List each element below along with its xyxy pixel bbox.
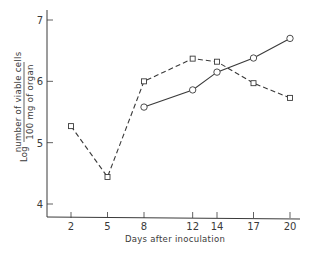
square-marker bbox=[105, 175, 110, 180]
square-marker bbox=[288, 95, 293, 100]
square-marker bbox=[251, 81, 256, 86]
x-tick-label: 2 bbox=[68, 221, 74, 232]
x-tick-label: 14 bbox=[211, 221, 224, 232]
circle-marker bbox=[250, 55, 256, 61]
series-layer bbox=[69, 35, 294, 179]
y-axis-title-numerator: number of viable cells bbox=[13, 51, 23, 152]
y-tick-label: 7 bbox=[37, 15, 43, 26]
axes: 456725812141720 bbox=[37, 10, 300, 232]
y-tick-label: 4 bbox=[37, 199, 43, 210]
circle-marker bbox=[189, 87, 195, 93]
y-axis-title: Log number of viable cells 100 mg of org… bbox=[13, 51, 35, 162]
y-tick-label: 6 bbox=[37, 76, 43, 87]
x-tick-label: 8 bbox=[141, 221, 147, 232]
x-tick-label: 20 bbox=[284, 221, 297, 232]
square-marker bbox=[215, 59, 220, 64]
y-tick-label: 5 bbox=[37, 138, 43, 149]
circle-marker bbox=[141, 104, 147, 110]
circle-marker bbox=[287, 35, 293, 41]
circle-marker bbox=[214, 69, 220, 75]
square-marker bbox=[69, 124, 74, 129]
x-tick-label: 5 bbox=[104, 221, 110, 232]
square-marker bbox=[142, 79, 147, 84]
x-tick-label: 12 bbox=[186, 221, 199, 232]
x-tick-label: 17 bbox=[247, 221, 260, 232]
chart: 456725812141720 Days after inoculation L… bbox=[0, 0, 310, 254]
x-axis-title: Days after inoculation bbox=[125, 234, 225, 244]
series-squares-dashed bbox=[69, 56, 293, 179]
series-line bbox=[71, 59, 290, 177]
y-axis-title-denominator: 100 mg of organ bbox=[25, 64, 35, 139]
square-marker bbox=[190, 56, 195, 61]
x-axis-line bbox=[47, 217, 300, 219]
